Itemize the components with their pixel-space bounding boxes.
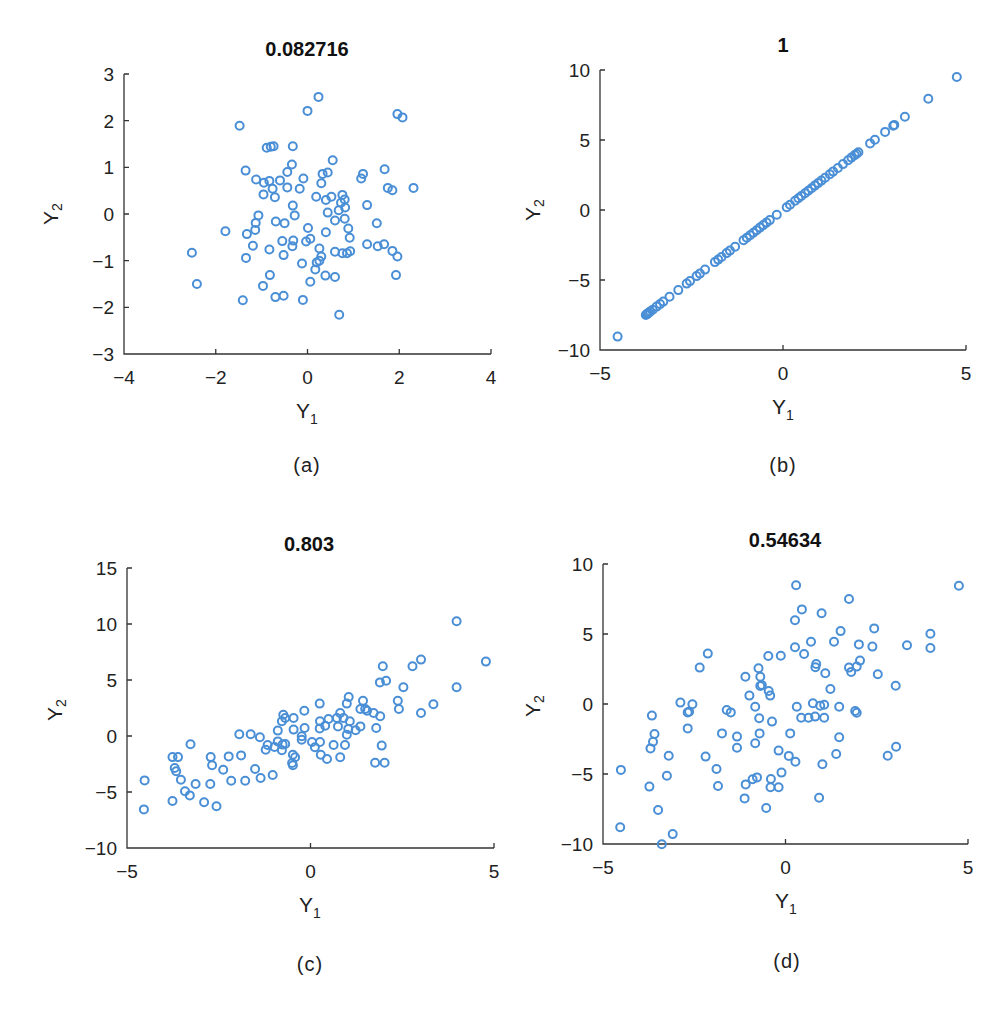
panel-a-data-point <box>299 296 307 304</box>
panel-b-ytick-label: −5 <box>568 270 590 291</box>
panel-a-data-point <box>288 242 296 250</box>
panel-c-xtick-label: 0 <box>305 861 316 882</box>
panel-c-data-point <box>140 805 148 813</box>
panel-a-xtick-labels: −4−2024 <box>113 367 497 388</box>
panel-a-data-point <box>269 185 277 193</box>
panel-c-data-point <box>316 738 324 746</box>
panel-a-data-point <box>324 209 332 217</box>
panel-d-ytick-label: 5 <box>582 624 593 645</box>
panel-a-xtick-label: 4 <box>486 367 497 388</box>
panel-c-data-point <box>187 740 195 748</box>
panel-d-data-point <box>751 739 759 747</box>
panel-c-data-point <box>257 774 265 782</box>
panel-a-data-point <box>276 176 284 184</box>
panel-c-data-point <box>334 722 342 730</box>
panel-c-ytick-label: 0 <box>106 726 117 747</box>
panel-a-data-point <box>289 202 297 210</box>
panel-c-data-point <box>341 741 349 749</box>
panel-c-data-point <box>371 759 379 767</box>
panel-c-data-point <box>381 759 389 767</box>
panel-d-ytick-label: −5 <box>571 764 593 785</box>
panel-d-data-point <box>926 644 934 652</box>
panel-d-data-point <box>702 753 710 761</box>
panel-d-data-point <box>733 744 741 752</box>
panel-b-ytick-label: 5 <box>579 130 590 151</box>
panel-d-data-point <box>654 806 662 814</box>
panel-c-ylabel: Y2 <box>43 699 69 721</box>
panel-b-data-point <box>953 73 961 81</box>
panel-c-data-point <box>336 753 344 761</box>
panel-c-xtick-label: −5 <box>116 861 138 882</box>
panel-d-data-point <box>818 609 826 617</box>
panel-a-data-point <box>281 219 289 227</box>
panel-d-data-point <box>786 729 794 737</box>
panel-d-data-point <box>818 760 826 768</box>
panel-c-xtick-labels: −505 <box>116 861 499 882</box>
panel-c-data-point <box>323 755 331 763</box>
panel-d-data-point <box>741 794 749 802</box>
panel-d-data-point <box>745 692 753 700</box>
panel-c: 0.803 −10−5051015 −505 Y2 Y1 (c) <box>43 533 499 975</box>
panel-a-data-point <box>236 122 244 130</box>
panel-d-data-point <box>733 733 741 741</box>
panel-d-data-point <box>903 641 911 649</box>
panel-c-xtick-label: 5 <box>489 861 500 882</box>
panel-d-data-point <box>791 616 799 624</box>
panel-d-data-point <box>651 730 659 738</box>
panel-d-data-point <box>826 685 834 693</box>
panel-a-data-point <box>283 183 291 191</box>
panel-a-data-point <box>259 282 267 290</box>
panel-d-data-point <box>645 783 653 791</box>
panel-d-data-point <box>793 703 801 711</box>
panel-d-data-point <box>778 769 786 777</box>
panel-d-data-point <box>892 743 900 751</box>
panel-a-data-point <box>242 167 250 175</box>
panel-c-ytick-label: 5 <box>106 670 117 691</box>
panel-c-data-point <box>394 697 402 705</box>
panel-d-data-point <box>718 729 726 737</box>
panel-c-data-point <box>316 700 324 708</box>
panel-a-data-point <box>315 245 323 253</box>
panel-a-data-point <box>363 201 371 209</box>
panel-d-data-point <box>714 782 722 790</box>
panel-a-data-point <box>392 271 400 279</box>
panel-c-data-point <box>417 656 425 664</box>
panel-d-data-point <box>742 780 750 788</box>
panel-d-data-point <box>791 643 799 651</box>
panel-c-data-point <box>290 714 298 722</box>
panel-d-ytick-label: −10 <box>561 834 593 855</box>
panel-a-data-point <box>329 156 337 164</box>
panel-d-data-point <box>832 750 840 758</box>
panel-d-data-point <box>821 669 829 677</box>
panel-a-data-point <box>242 254 250 262</box>
panel-c-data-point <box>379 662 387 670</box>
panel-a-ytick-label: 3 <box>103 64 114 85</box>
panel-c-data-point <box>225 752 233 760</box>
panel-b-xlabel: Y1 <box>772 395 794 423</box>
panel-a-data-point <box>317 179 325 187</box>
panel-a-data-point <box>272 218 280 226</box>
panel-a-data-point <box>393 253 401 261</box>
panel-c-data-point <box>169 797 177 805</box>
panel-a-data-point <box>335 311 343 319</box>
panel-a-data-point <box>304 107 312 115</box>
panel-c-data-point <box>241 777 249 785</box>
panel-d-data-point <box>676 699 684 707</box>
panel-a-points <box>188 93 418 319</box>
panel-d-xtick-label: −5 <box>592 857 614 878</box>
panel-d-data-point <box>713 765 721 773</box>
panel-a-data-point <box>252 176 260 184</box>
panel-c-data-point <box>300 707 308 715</box>
panel-a-ytick-label: 1 <box>103 157 114 178</box>
panel-d-data-point <box>756 673 764 681</box>
panel-a-data-point <box>271 193 279 201</box>
panel-a-caption: (a) <box>293 454 320 476</box>
panel-a-title: 0.082716 <box>265 38 348 60</box>
panel-a-data-point <box>243 230 251 238</box>
panel-d-data-point <box>704 650 712 658</box>
panel-d: 0.54634 −10−50510 −505 Y2 Y1 (d) <box>521 529 973 972</box>
panel-a-data-point <box>331 217 339 225</box>
panel-d-data-point <box>884 752 892 760</box>
panel-d-data-point <box>696 664 704 672</box>
panel-c-data-point <box>429 700 437 708</box>
